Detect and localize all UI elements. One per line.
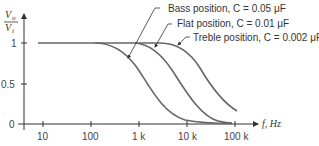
y-tick-0: 0 bbox=[9, 119, 15, 130]
x-tick-10k: 10 k bbox=[178, 131, 198, 142]
treble-curve bbox=[135, 43, 237, 111]
y-label-numerator-sub: o bbox=[12, 14, 16, 22]
x-axis-label: f, Hz bbox=[262, 118, 281, 129]
bass-annotation: Bass position, C = 0.05 μF bbox=[168, 3, 286, 14]
x-tick-1k: 1 k bbox=[132, 131, 146, 142]
flat-annotation: Flat position, C = 0.01 μF bbox=[177, 18, 289, 29]
y-axis-label: V o V i bbox=[4, 9, 18, 35]
flat-curve bbox=[95, 43, 232, 123]
y-tick-0.5: 0.5 bbox=[1, 79, 15, 90]
treble-leader bbox=[178, 37, 190, 45]
treble-annotation: Treble position, C = 0.002 μF bbox=[193, 32, 319, 43]
y-label-denominator-sub: i bbox=[12, 27, 14, 35]
x-tick-10: 10 bbox=[37, 131, 49, 142]
x-tick-100: 100 bbox=[82, 131, 99, 142]
leader-lines bbox=[128, 8, 190, 58]
curves bbox=[38, 43, 237, 124]
y-tick-1: 1 bbox=[11, 38, 17, 49]
y-axis bbox=[21, 14, 27, 130]
x-tick-100k: 100 k bbox=[224, 131, 249, 142]
frequency-response-chart: V o V i 1 0.5 0 10 100 1 k 10 k 100 k f,… bbox=[0, 0, 319, 146]
